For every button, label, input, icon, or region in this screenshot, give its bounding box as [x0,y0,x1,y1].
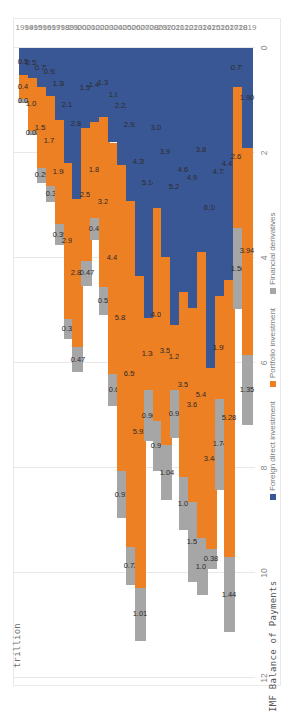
bar-row: 1.903.941.35 [242,48,253,686]
bar-segment-fd: 1.35 [242,355,253,426]
chart-legend: Foreign direct investmentPortfolio inves… [268,198,277,500]
bar-value-label: 1.35 [240,386,255,394]
legend-swatch-icon [270,288,276,294]
tick-label: 12 [259,673,269,682]
bar-segment-fdi: 1.90 [242,48,253,148]
legend-item[interactable]: Financial derivatives [268,212,277,293]
tick-label: 10 [259,568,269,577]
bar-segment-pi: 3.94 [242,148,253,355]
legend-item[interactable]: Foreign direct investment [268,401,277,500]
category-label: 2019 [238,23,256,32]
legend-label: Foreign direct investment [268,401,277,491]
legend-swatch-icon [270,381,276,387]
tick-label: 2 [259,151,269,156]
legend-label: Financial derivatives [268,212,277,284]
chart-frame: trillion IMF Balance of Payments 0246810… [0,0,298,719]
legend-swatch-icon [270,494,276,500]
legend-item[interactable]: Portfolio investment [268,308,277,387]
legend-label: Portfolio investment [268,308,277,378]
chart-stage: 024681012 0.520.460.060.571.010.080.751.… [13,18,281,686]
bar-value-label: 1.90 [240,94,255,102]
tick-label: 0 [259,46,269,51]
bar-value-label: 3.94 [240,247,255,255]
